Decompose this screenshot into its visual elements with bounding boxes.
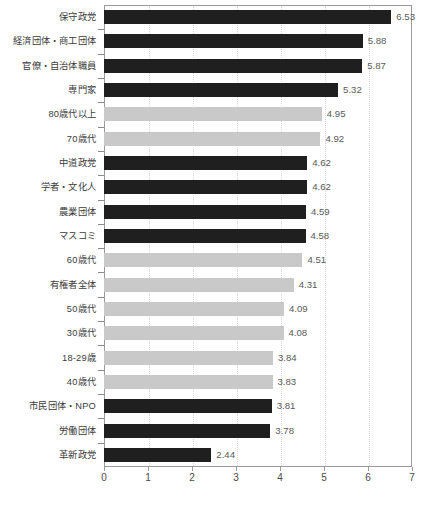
x-axis-tick-label: 4 xyxy=(277,472,283,484)
category-label: 保守政党 xyxy=(0,12,96,22)
bar-row: 4.95 xyxy=(104,102,412,126)
bar-value-label: 3.83 xyxy=(278,374,297,389)
category-label: 40歳代 xyxy=(0,377,96,387)
y-axis-tick xyxy=(98,345,104,346)
bar-row: 6.53 xyxy=(104,5,412,29)
bar-value-label: 4.31 xyxy=(299,277,318,292)
bar xyxy=(104,375,273,389)
x-axis-tick xyxy=(148,467,149,471)
bar xyxy=(104,10,391,24)
x-axis-tick xyxy=(280,467,281,471)
x-axis-tick xyxy=(104,467,105,471)
bar-row: 4.08 xyxy=(104,321,412,345)
bar xyxy=(104,448,211,462)
category-label: 70歳代 xyxy=(0,134,96,144)
y-axis-tick xyxy=(98,418,104,419)
bar xyxy=(104,132,320,146)
bar-row: 3.83 xyxy=(104,370,412,394)
category-label: 学者・文化人 xyxy=(0,182,96,192)
category-label: 30歳代 xyxy=(0,328,96,338)
bar-row: 3.78 xyxy=(104,418,412,442)
horizontal-bar-chart: 保守政党経済団体・商工団体官僚・自治体職員専門家80歳代以上70歳代中道政党学者… xyxy=(0,0,424,507)
y-axis-tick xyxy=(98,78,104,79)
bar xyxy=(104,424,270,438)
bar xyxy=(104,351,273,365)
category-label: 18-29歳 xyxy=(0,353,96,363)
x-axis-tick xyxy=(236,467,237,471)
bar-row: 4.09 xyxy=(104,297,412,321)
x-axis-tick xyxy=(368,467,369,471)
bars-layer: 6.535.885.875.324.954.924.624.624.594.58… xyxy=(104,5,412,467)
bar-value-label: 5.88 xyxy=(368,33,387,48)
x-axis-tick-label: 2 xyxy=(189,472,195,484)
bar-row: 4.51 xyxy=(104,248,412,272)
bar-value-label: 4.95 xyxy=(327,106,346,121)
bar-row: 3.81 xyxy=(104,394,412,418)
bar-value-label: 3.84 xyxy=(278,350,297,365)
category-label: 市民団体・NPO xyxy=(0,401,96,411)
bar-value-label: 4.59 xyxy=(311,204,330,219)
bar xyxy=(104,302,284,316)
x-axis-tick xyxy=(412,467,413,471)
bar xyxy=(104,83,338,97)
y-axis-tick xyxy=(98,297,104,298)
bar xyxy=(104,156,307,170)
y-axis-tick xyxy=(98,102,104,103)
bar-row: 4.62 xyxy=(104,151,412,175)
bar-row: 4.58 xyxy=(104,224,412,248)
category-label: 60歳代 xyxy=(0,255,96,265)
bar xyxy=(104,278,294,292)
bar xyxy=(104,399,272,413)
x-axis-tick-label: 5 xyxy=(321,472,327,484)
x-axis-tick-label: 0 xyxy=(101,472,107,484)
bar-row: 5.88 xyxy=(104,29,412,53)
bar xyxy=(104,59,362,73)
category-label-column: 保守政党経済団体・商工団体官僚・自治体職員専門家80歳代以上70歳代中道政党学者… xyxy=(0,5,96,467)
y-axis-tick xyxy=(98,200,104,201)
category-label: 80歳代以上 xyxy=(0,109,96,119)
bar-value-label: 3.78 xyxy=(275,423,294,438)
bar-value-label: 4.08 xyxy=(289,325,308,340)
x-axis: 01234567 xyxy=(104,467,412,489)
y-axis-tick xyxy=(98,321,104,322)
category-label: マスコミ xyxy=(0,231,96,241)
y-axis-tick xyxy=(98,175,104,176)
bar xyxy=(104,326,284,340)
bar-row: 5.32 xyxy=(104,78,412,102)
bar-value-label: 2.44 xyxy=(216,447,235,462)
bar-value-label: 5.87 xyxy=(367,58,386,73)
y-axis-tick xyxy=(98,127,104,128)
bar-row: 4.59 xyxy=(104,200,412,224)
category-label: 革新政党 xyxy=(0,450,96,460)
bar-row: 3.84 xyxy=(104,345,412,369)
bar xyxy=(104,205,306,219)
category-label: 有権者全体 xyxy=(0,280,96,290)
y-axis-tick xyxy=(98,272,104,273)
bar-value-label: 4.62 xyxy=(312,179,331,194)
category-label: 専門家 xyxy=(0,85,96,95)
x-axis-tick xyxy=(192,467,193,471)
category-label: 中道政党 xyxy=(0,158,96,168)
bar-value-label: 4.92 xyxy=(325,131,344,146)
bar-value-label: 5.32 xyxy=(343,82,362,97)
bar-row: 4.92 xyxy=(104,127,412,151)
category-label: 50歳代 xyxy=(0,304,96,314)
bar-value-label: 3.81 xyxy=(277,398,296,413)
x-axis-tick-label: 1 xyxy=(145,472,151,484)
x-axis-tick xyxy=(324,467,325,471)
category-label: 経済団体・商工団体 xyxy=(0,36,96,46)
y-axis-tick xyxy=(98,370,104,371)
bar-value-label: 4.62 xyxy=(312,155,331,170)
y-axis-tick xyxy=(98,29,104,30)
bar xyxy=(104,107,322,121)
y-axis-tick xyxy=(98,443,104,444)
bar-row: 5.87 xyxy=(104,54,412,78)
bar xyxy=(104,34,363,48)
y-axis-tick xyxy=(98,224,104,225)
category-label: 労働団体 xyxy=(0,426,96,436)
bar xyxy=(104,180,307,194)
x-axis-tick-label: 7 xyxy=(409,472,415,484)
bar xyxy=(104,229,306,243)
bar-value-label: 6.53 xyxy=(396,9,415,24)
bar-row: 4.62 xyxy=(104,175,412,199)
